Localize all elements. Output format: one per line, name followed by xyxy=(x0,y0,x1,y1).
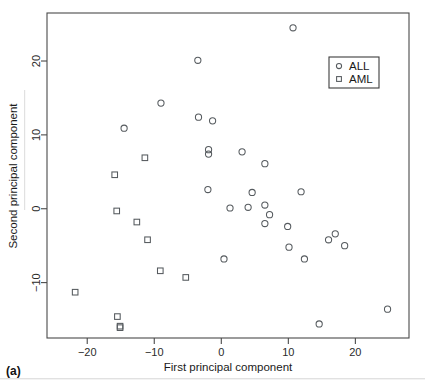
data-point-circle xyxy=(158,100,164,106)
data-point-circle xyxy=(209,118,215,124)
data-point-circle xyxy=(285,223,291,229)
data-point-square xyxy=(134,219,140,225)
data-point-square xyxy=(145,237,151,243)
x-tick-label: −10 xyxy=(145,346,164,358)
data-point-square xyxy=(115,314,121,320)
data-point-circle xyxy=(245,204,251,210)
figure-container: −20−1001020 −1001020 ALLAML First princi… xyxy=(0,0,425,387)
legend[interactable]: ALLAML xyxy=(329,57,379,88)
data-point-circle xyxy=(262,161,268,167)
x-tick-label: −20 xyxy=(78,346,97,358)
data-point-circle xyxy=(325,237,331,243)
x-tick-label: 10 xyxy=(282,346,294,358)
legend-label-aml: AML xyxy=(349,73,373,85)
data-point-square xyxy=(117,323,123,329)
data-point-circle xyxy=(195,114,201,120)
data-point-circle xyxy=(239,149,245,155)
x-axis-title: First principal component xyxy=(164,361,293,373)
legend-label-all: ALL xyxy=(349,60,370,72)
data-point-circle xyxy=(384,306,390,312)
x-tick-label: 0 xyxy=(218,346,224,358)
x-tick-label: 20 xyxy=(349,346,361,358)
data-point-square xyxy=(183,275,189,281)
y-tick-label: −10 xyxy=(30,273,42,292)
data-point-circle xyxy=(342,243,348,249)
panel-label: (a) xyxy=(6,364,21,378)
data-point-circle xyxy=(262,202,268,208)
data-point-circle xyxy=(227,205,233,211)
y-tick-label: 10 xyxy=(30,129,42,141)
scan-artifacts xyxy=(0,90,425,379)
y-tick-label: 20 xyxy=(30,55,42,67)
data-point-circle xyxy=(266,212,272,218)
data-point-square xyxy=(112,172,118,178)
data-point-square xyxy=(72,289,78,295)
data-point-square xyxy=(142,155,148,161)
y-axis-ticks: −1001020 xyxy=(30,55,47,292)
data-point-circle xyxy=(316,321,322,327)
data-point-circle xyxy=(286,244,292,250)
data-point-circle xyxy=(205,186,211,192)
data-point-circle xyxy=(221,256,227,262)
y-tick-label: 0 xyxy=(30,206,42,212)
x-axis-ticks: −20−1001020 xyxy=(78,338,362,358)
y-axis-title: Second principal component xyxy=(7,103,19,249)
series-aml xyxy=(72,155,188,330)
data-point-circle xyxy=(121,125,127,131)
data-point-circle xyxy=(332,231,338,237)
data-point-circle xyxy=(290,25,296,31)
data-point-square xyxy=(114,208,120,214)
data-point-circle xyxy=(262,220,268,226)
data-point-square xyxy=(117,325,123,331)
data-point-circle xyxy=(205,151,211,157)
data-point-circle xyxy=(195,57,201,63)
scatter-plot: −20−1001020 −1001020 ALLAML First princi… xyxy=(0,0,425,387)
data-point-circle xyxy=(249,189,255,195)
data-point-circle xyxy=(301,256,307,262)
data-point-square xyxy=(157,268,163,274)
data-point-circle xyxy=(298,189,304,195)
